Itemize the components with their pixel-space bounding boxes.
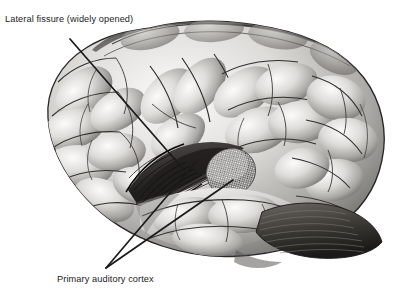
brain-illustration: Lateral fissure (widely opened) Primary …: [0, 0, 398, 294]
primary-auditory-cortex-label: Primary auditory cortex: [57, 274, 154, 284]
brain-figure: Lateral fissure (widely opened) Primary …: [0, 0, 398, 294]
lateral-fissure-label: Lateral fissure (widely opened): [5, 14, 133, 24]
